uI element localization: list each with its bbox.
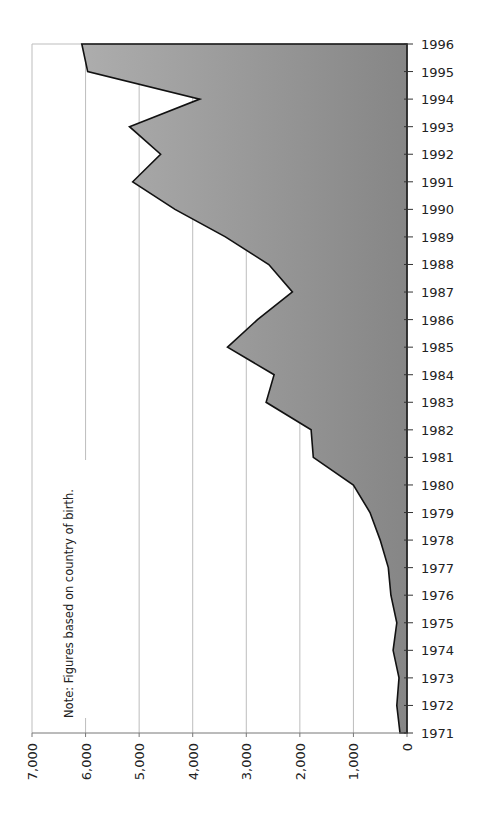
chart-note: Note: Figures based on country of birth. xyxy=(62,489,76,718)
year-tick-label: 1980 xyxy=(421,478,454,493)
value-tick-label: 2,000 xyxy=(293,743,308,780)
year-tick-label: 1990 xyxy=(421,202,454,217)
value-tick-label: 4,000 xyxy=(186,743,201,780)
year-tick-label: 1978 xyxy=(421,533,454,548)
year-tick-label: 1995 xyxy=(421,65,454,80)
year-tick-label: 1986 xyxy=(421,313,454,328)
year-tick-label: 1979 xyxy=(421,506,454,521)
year-tick-label: 1985 xyxy=(421,340,454,355)
year-tick-label: 1974 xyxy=(421,643,454,658)
year-tick-label: 1988 xyxy=(421,257,454,272)
area-chart: 01,0002,0003,0004,0005,0006,0007,000 197… xyxy=(0,0,479,817)
value-tick-label: 3,000 xyxy=(239,743,254,780)
year-axis: 1971197219731974197519761977197819791980… xyxy=(404,37,454,741)
value-tick-label: 1,000 xyxy=(346,743,361,780)
year-tick-label: 1973 xyxy=(421,671,454,686)
year-tick-label: 1987 xyxy=(421,285,454,300)
year-tick-label: 1976 xyxy=(421,588,454,603)
value-axis-ticks: 01,0002,0003,0004,0005,0006,0007,000 xyxy=(25,733,415,780)
year-tick-label: 1977 xyxy=(421,561,454,576)
year-tick-label: 1992 xyxy=(421,147,454,162)
year-tick-label: 1994 xyxy=(421,92,454,107)
year-tick-label: 1983 xyxy=(421,395,454,410)
year-axis-ticks: 1971197219731974197519761977197819791980… xyxy=(404,37,454,741)
value-tick-label: 6,000 xyxy=(79,743,94,780)
data-area xyxy=(82,44,407,733)
value-tick-label: 5,000 xyxy=(132,743,147,780)
value-axis: 01,0002,0003,0004,0005,0006,0007,000 xyxy=(25,733,415,780)
year-tick-label: 1993 xyxy=(421,120,454,135)
year-tick-label: 1982 xyxy=(421,423,454,438)
year-tick-label: 1975 xyxy=(421,616,454,631)
year-tick-label: 1984 xyxy=(421,368,454,383)
year-tick-label: 1991 xyxy=(421,175,454,190)
year-tick-label: 1971 xyxy=(421,726,454,741)
year-tick-label: 1996 xyxy=(421,37,454,52)
year-tick-label: 1989 xyxy=(421,230,454,245)
value-tick-label: 7,000 xyxy=(25,743,40,780)
year-tick-label: 1981 xyxy=(421,450,454,465)
year-tick-label: 1972 xyxy=(421,698,454,713)
value-tick-label: 0 xyxy=(400,743,415,751)
